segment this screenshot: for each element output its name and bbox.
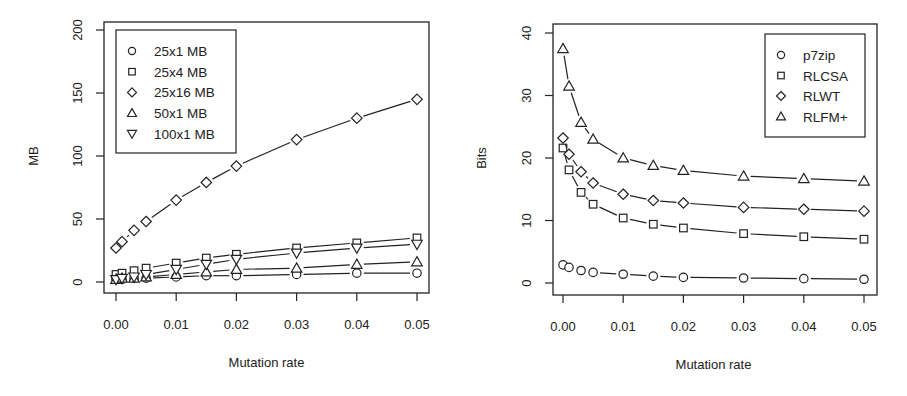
data-series-p7zip xyxy=(559,261,868,284)
series-line-segment xyxy=(630,196,646,199)
marker-triangle-up-icon xyxy=(859,176,870,185)
series-line-segment xyxy=(304,249,350,253)
marker-diamond-icon xyxy=(576,167,587,178)
legend-label: RLWT xyxy=(803,89,840,104)
marker-circle-icon xyxy=(649,272,657,280)
x-tick-label: 0.05 xyxy=(404,317,429,332)
series-line-segment xyxy=(304,265,350,268)
x-tick-label: 0.00 xyxy=(550,319,575,334)
series-line-segment xyxy=(600,273,616,274)
x-tick-label: 0.02 xyxy=(671,319,696,334)
series-line-segment xyxy=(243,275,289,276)
x-tick-label: 0.03 xyxy=(731,319,756,334)
legend: p7zipRLCSARLWTRLFM+ xyxy=(765,34,865,137)
series-line-segment xyxy=(304,273,350,274)
marker-square-icon xyxy=(129,68,135,74)
x-axis-title: Mutation rate xyxy=(229,355,305,370)
marker-diamond-icon xyxy=(291,134,302,145)
y-tick-label: 0 xyxy=(519,279,534,286)
series-line-segment xyxy=(243,249,289,254)
series-line-segment xyxy=(630,160,647,164)
marker-triangle-up-icon xyxy=(576,117,587,126)
series-line-segment xyxy=(213,260,229,263)
marker-triangle-down-icon xyxy=(352,244,363,253)
series-line-segment xyxy=(751,176,797,178)
data-series-rlcsa xyxy=(559,144,868,243)
marker-square-icon xyxy=(565,166,573,174)
marker-diamond-icon xyxy=(231,161,242,172)
marker-triangle-up-icon xyxy=(648,160,659,169)
x-tick-label: 0.04 xyxy=(791,319,816,334)
marker-triangle-down-icon xyxy=(412,240,423,249)
marker-diamond-icon xyxy=(141,216,152,227)
marker-triangle-down-icon xyxy=(171,265,182,274)
legend-label: 25x16 MB xyxy=(154,85,215,100)
marker-triangle-down-icon xyxy=(231,255,242,264)
chart-panel-left: 0.000.010.020.030.040.05Mutation rate050… xyxy=(26,19,430,370)
series-line-segment xyxy=(182,186,200,197)
series-line-segment xyxy=(586,197,588,199)
series-line-segment xyxy=(571,93,579,116)
marker-diamond-icon xyxy=(648,195,659,206)
series-line-segment xyxy=(564,56,568,80)
series-line-segment xyxy=(690,229,736,233)
marker-square-icon xyxy=(740,230,748,238)
x-tick-label: 0.02 xyxy=(224,317,249,332)
y-axis: 050100150200MB xyxy=(26,19,104,285)
series-line-segment xyxy=(127,235,129,237)
x-axis: 0.000.010.020.030.040.05Mutation rate xyxy=(103,293,429,370)
x-tick-label: 0.03 xyxy=(284,317,309,332)
marker-square-icon xyxy=(680,224,688,232)
series-line-segment xyxy=(363,101,410,116)
series-line-segment xyxy=(586,177,588,179)
marker-triangle-down-icon xyxy=(201,260,212,269)
marker-triangle-up-icon xyxy=(799,173,810,182)
series-line-segment xyxy=(364,238,410,242)
marker-square-icon xyxy=(778,72,784,78)
legend-label: RLFM+ xyxy=(803,110,848,125)
marker-triangle-down-icon xyxy=(291,249,302,258)
marker-diamond-icon xyxy=(558,133,569,144)
series-line-segment xyxy=(599,143,617,154)
series-line-segment xyxy=(660,167,676,170)
series-line-segment xyxy=(573,160,577,166)
series-line-segment xyxy=(153,271,169,274)
series-line-segment xyxy=(751,234,797,236)
data-series-50x1-mb xyxy=(111,257,423,284)
marker-triangle-up-icon xyxy=(564,81,575,90)
y-axis-title: Bits xyxy=(474,147,489,169)
marker-triangle-up-icon xyxy=(291,263,302,272)
series-line-segment xyxy=(153,277,169,278)
series-line-segment xyxy=(183,273,199,274)
series-line-segment xyxy=(212,169,230,179)
series-line-segment xyxy=(572,176,577,186)
y-axis: 010203040Bits xyxy=(474,26,553,287)
series-line-segment xyxy=(243,268,289,269)
series-line-segment xyxy=(811,209,857,210)
marker-square-icon xyxy=(860,235,868,243)
marker-triangle-up-icon xyxy=(618,153,629,162)
marker-circle-icon xyxy=(577,266,585,274)
marker-square-icon xyxy=(577,189,585,197)
marker-circle-icon xyxy=(679,273,687,281)
series-line-segment xyxy=(243,142,290,163)
marker-circle-icon xyxy=(800,274,808,282)
series-line-segment xyxy=(751,208,797,209)
marker-triangle-up-icon xyxy=(412,257,423,266)
series-line-segment xyxy=(660,201,676,202)
y-tick-label: 150 xyxy=(70,82,85,104)
y-tick-label: 40 xyxy=(519,26,534,40)
x-tick-label: 0.05 xyxy=(851,319,876,334)
x-tick-label: 0.04 xyxy=(344,317,369,332)
legend-label: RLCSA xyxy=(803,69,848,84)
x-tick-label: 0.01 xyxy=(611,319,636,334)
series-line-segment xyxy=(690,204,736,207)
marker-diamond-icon xyxy=(129,225,140,236)
marker-diamond-icon xyxy=(738,202,749,213)
legend-label: 25x4 MB xyxy=(154,65,207,80)
marker-square-icon xyxy=(619,214,627,222)
marker-triangle-up-icon xyxy=(738,171,749,180)
series-line-segment xyxy=(600,185,617,191)
marker-diamond-icon xyxy=(618,189,629,200)
marker-circle-icon xyxy=(860,275,868,283)
